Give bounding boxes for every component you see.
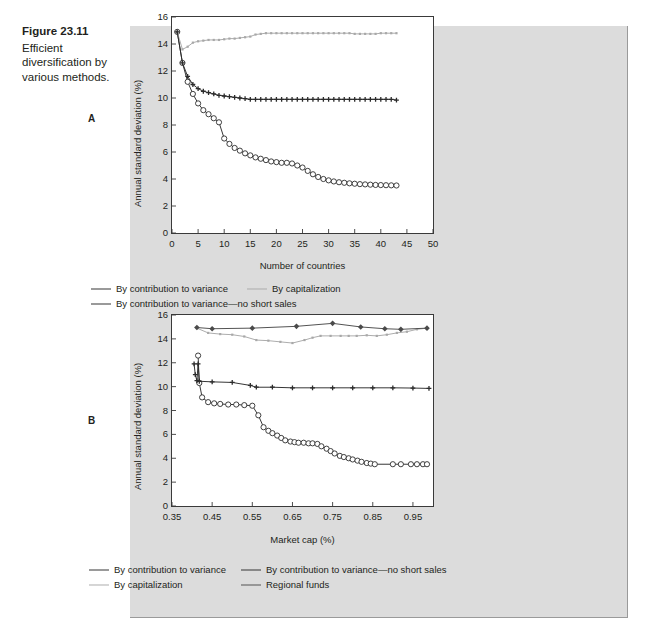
x-tick-label: 0.45 (197, 511, 227, 522)
panel-letter-b: B (88, 415, 95, 426)
y-tick-label: 16 (146, 11, 168, 22)
y-tick-label: 10 (146, 381, 168, 392)
legend-swatch (88, 580, 110, 590)
y-tick-label: 14 (146, 38, 168, 49)
legend-row: By capitalizationRegional funds (88, 579, 508, 591)
x-axis-label-b: Market cap (%) (171, 534, 434, 545)
legend-swatch (90, 284, 112, 294)
y-tick-label: 4 (146, 173, 168, 184)
y-tick-label: 12 (146, 357, 168, 368)
legend-row: By contribution to varianceBy contributi… (88, 564, 508, 576)
figure-description: Efficient diversification by various met… (22, 41, 122, 85)
legend-item: By contribution to variance (88, 564, 226, 576)
legend-label: By capitalization (114, 579, 183, 591)
legend-marker-filled-plus-line (240, 565, 262, 575)
x-tick-label: 0.65 (277, 511, 307, 522)
plot-area-a (171, 16, 434, 234)
y-tick-label: 4 (146, 452, 168, 463)
y-tick-label: 2 (146, 200, 168, 211)
legend-swatch (240, 580, 262, 590)
legend-label: Regional funds (266, 579, 329, 591)
y-tick-label: 0 (146, 227, 168, 238)
legend-swatch (88, 565, 110, 575)
x-tick-label: 0.75 (318, 511, 348, 522)
y-tick-label: 8 (146, 119, 168, 130)
y-axis-label-b: Annual standard deviation (%) (132, 363, 143, 490)
x-axis-label-a: Number of countries (171, 260, 434, 271)
y-axis-label-a: Annual standard deviation (%) (132, 80, 143, 207)
legend-item: By capitalization (246, 283, 341, 295)
legend-marker-filled-diamond-line (240, 580, 262, 590)
legend-marker-small-dot-line (88, 580, 110, 590)
x-tick-label: 50 (418, 238, 448, 249)
legend-label: By contribution to variance (116, 283, 228, 295)
y-tick-label: 2 (146, 476, 168, 487)
legend-swatch (240, 565, 262, 575)
legend-row: By contribution to varianceBy capitaliza… (90, 283, 490, 295)
y-tick-label: 14 (146, 333, 168, 344)
figure-caption: Figure 23.11 Efficient diversification b… (22, 24, 122, 84)
legend-swatch (246, 284, 268, 294)
y-tick-label: 6 (146, 428, 168, 439)
x-tick-label: 0.55 (237, 511, 267, 522)
plot-svg-b (172, 315, 433, 506)
legend-item: Regional funds (240, 579, 329, 591)
figure-number: Figure 23.11 (22, 24, 122, 39)
y-tick-label: 12 (146, 65, 168, 76)
legend-label: By contribution to variance—no short sal… (266, 564, 447, 576)
x-tick-label: 0.85 (358, 511, 388, 522)
x-tick-label: 0.35 (157, 511, 187, 522)
legend-marker-filled-plus-line (90, 299, 112, 309)
y-tick-label: 8 (146, 405, 168, 416)
y-tick-label: 16 (146, 309, 168, 320)
y-tick-label: 0 (146, 500, 168, 511)
legend-marker-open-circle-line (88, 565, 110, 575)
plot-area-b (171, 314, 434, 507)
figure-root: Figure 23.11 Efficient diversification b… (0, 0, 656, 639)
chart-panel-b: Annual standard deviation (%) 0246810121… (118, 300, 468, 562)
x-tick-label: 0.95 (398, 511, 428, 522)
legend-marker-open-circle-line (90, 284, 112, 294)
legend-item: By contribution to variance—no short sal… (240, 564, 447, 576)
legend-label: By contribution to variance (114, 564, 226, 576)
legend-panel-b: By contribution to varianceBy contributi… (88, 564, 508, 594)
legend-item: By contribution to variance (90, 283, 228, 295)
legend-swatch (90, 299, 112, 309)
y-tick-label: 10 (146, 92, 168, 103)
panel-letter-a: A (88, 113, 95, 124)
legend-label: By capitalization (272, 283, 341, 295)
legend-item: By capitalization (88, 579, 183, 591)
legend-marker-small-dot-line (246, 284, 268, 294)
plot-svg-a (172, 17, 433, 233)
y-tick-label: 6 (146, 146, 168, 157)
chart-panel-a: Annual standard deviation (%) 0246810121… (118, 2, 468, 287)
